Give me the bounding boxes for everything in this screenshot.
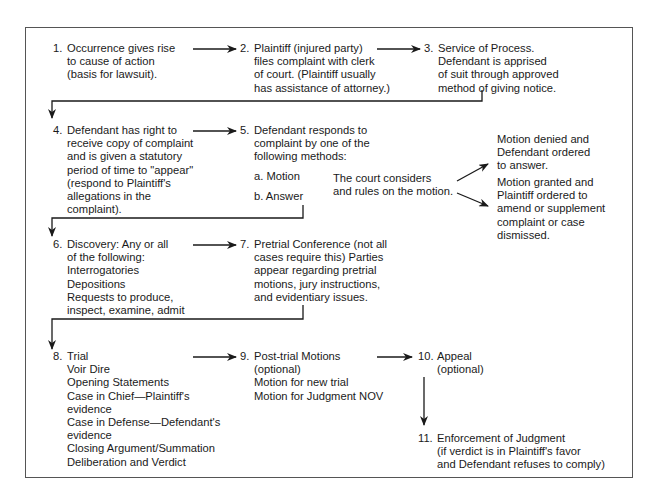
- option-b-answer: b. Answer: [254, 190, 303, 203]
- step-1-occurrence: 1. Occurrence gives rise to cause of act…: [53, 42, 175, 82]
- outcome-motion-denied: Motion denied and Defendant ordered to a…: [497, 133, 590, 173]
- outcome-motion-granted: Motion granted and Plaintiff ordered to …: [497, 176, 605, 242]
- step-4-defendant-rights: 4. Defendant has right to receive copy o…: [53, 124, 193, 216]
- step-2-plaintiff-files: 2. Plaintiff (injured party) files compl…: [240, 42, 390, 95]
- arrow-motion-granted: [457, 193, 488, 206]
- step-9-post-trial-motions: 9. Post-trial Motions (optional) Motion …: [240, 350, 383, 403]
- step-10-appeal: 10. Appeal (optional): [418, 350, 484, 376]
- step-8-trial: 8. Trial Voir Dire Opening Statements Ca…: [53, 350, 220, 469]
- court-rules-note: The court considers and rules on the mot…: [333, 172, 453, 198]
- step-3-service-of-process: 3. Service of Process. Defendant is appr…: [424, 42, 559, 95]
- option-a-motion: a. Motion: [254, 170, 300, 183]
- step-6-discovery: 6. Discovery: Any or all of the followin…: [53, 238, 185, 317]
- arrow-motion-denied: [457, 164, 488, 181]
- step-11-enforcement: 11. Enforcement of Judgment (if verdict …: [418, 432, 605, 472]
- step-7-pretrial-conference: 7. Pretrial Conference (not all cases re…: [240, 238, 387, 304]
- step-5-defendant-responds: 5. Defendant responds to complaint by on…: [240, 124, 370, 164]
